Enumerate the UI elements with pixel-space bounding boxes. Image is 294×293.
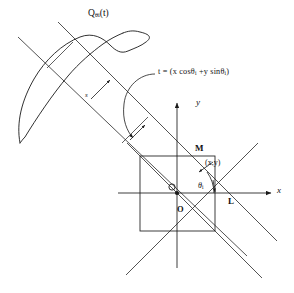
x-axis-label: x: [277, 186, 281, 195]
ray-coordinate-label: s: [85, 92, 88, 99]
profile-curve-q: Q: [88, 8, 95, 18]
y-axis-label: y: [196, 98, 200, 107]
angle-theta-subscript: i: [202, 184, 204, 190]
ray-direction-arrow: [91, 80, 110, 99]
projection-band-lines: [18, 22, 277, 256]
angle-theta-label: θi: [198, 182, 203, 191]
profile-curve-arg: (t): [100, 8, 109, 18]
radon-geometry-diagram: [0, 0, 294, 293]
square-diagonals: [126, 143, 262, 278]
callout-curved-arrow: [124, 74, 155, 138]
t-equation-cos: cosθ: [177, 67, 195, 76]
t-equation-label: t = (x cosθi +y sinθi): [158, 68, 229, 77]
t-equation-lhs: t = (x: [158, 67, 177, 76]
origin-label: O: [177, 205, 184, 214]
cartesian-axes: [118, 103, 271, 268]
t-equation-close: ): [226, 67, 229, 76]
point-xy-label: (x,y): [205, 159, 220, 167]
t-equation-mid: +y sinθ: [197, 67, 225, 76]
profile-curve-label: Qθi(t): [88, 9, 109, 19]
figure-root: Qθi(t) t = (x cosθi +y sinθi) y x M (x,y…: [0, 0, 294, 293]
point-m-label: M: [195, 144, 204, 153]
point-l-label: L: [228, 197, 234, 206]
